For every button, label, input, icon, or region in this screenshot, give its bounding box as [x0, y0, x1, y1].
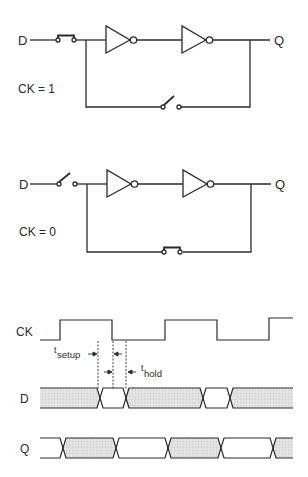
hold-label-sub: hold: [144, 368, 162, 379]
bottom-input-switch-open: [57, 173, 77, 186]
top-feedback-right: [181, 40, 250, 107]
top-feedback-switch-open: [161, 96, 181, 109]
bottom-condition-label: CK = 0: [19, 225, 56, 239]
bottom-inverter-1: [107, 170, 138, 197]
q-signal-label: Q: [20, 442, 29, 456]
bottom-circuit: D Q CK = 0: [19, 170, 285, 254]
top-condition-label: CK = 1: [18, 82, 55, 96]
top-output-label: Q: [274, 33, 284, 48]
d-waveform: [40, 388, 293, 408]
top-circuit: D Q CK = 1: [18, 26, 284, 109]
bottom-inverter-2: [183, 170, 214, 197]
top-input-label: D: [18, 33, 27, 48]
ck-waveform: [40, 318, 293, 340]
bottom-feedback-switch-closed: [162, 248, 182, 255]
q-waveform: [40, 438, 293, 458]
timing-diagram: CK t setup t hold D: [16, 318, 293, 458]
setup-label-sub: setup: [57, 349, 80, 360]
top-inverter-1: [106, 26, 137, 53]
top-feedback-left: [86, 40, 161, 107]
hold-arrows: [104, 370, 136, 374]
setup-arrows: [88, 352, 122, 356]
top-input-switch-closed: [56, 36, 76, 43]
top-inverter-2: [182, 26, 213, 53]
timing-markers: [98, 341, 126, 389]
bottom-output-label: Q: [275, 177, 285, 192]
bottom-input-label: D: [19, 177, 28, 192]
ck-signal-label: CK: [16, 325, 33, 339]
latch-diagram: D Q CK = 1 D: [0, 0, 308, 477]
d-signal-label: D: [20, 392, 29, 406]
